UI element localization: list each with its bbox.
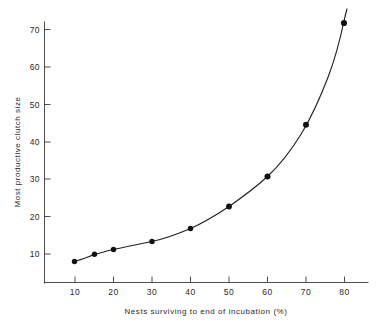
data-point (303, 122, 309, 128)
data-point (72, 259, 77, 264)
y-tick-label-50: 50 (30, 100, 40, 110)
x-tick-label-80: 80 (339, 287, 349, 297)
y-axis-tick-labels: 70 60 50 40 30 20 10 (30, 25, 40, 260)
data-point (188, 226, 193, 231)
chart-figure: 70 60 50 40 30 20 10 10 20 30 40 50 60 (0, 0, 381, 327)
y-tick-label-10: 10 (30, 249, 40, 259)
y-tick-label-70: 70 (30, 25, 40, 35)
x-axis-ticks (75, 277, 345, 283)
x-tick-label-70: 70 (301, 287, 311, 297)
y-axis-title: Most productive clutch size (13, 97, 22, 208)
data-point (265, 174, 271, 180)
data-point (149, 239, 154, 244)
y-tick-label-30: 30 (30, 174, 40, 184)
data-curve (75, 9, 348, 262)
data-points (72, 20, 347, 264)
x-tick-label-50: 50 (224, 287, 234, 297)
chart-plot-area: 70 60 50 40 30 20 10 10 20 30 40 50 60 (0, 0, 381, 327)
data-point (341, 20, 347, 26)
data-point (226, 204, 232, 210)
y-tick-label-20: 20 (30, 212, 40, 222)
x-tick-label-40: 40 (185, 287, 195, 297)
x-tick-label-30: 30 (147, 287, 157, 297)
x-axis-tick-labels: 10 20 30 40 50 60 70 80 (70, 287, 350, 297)
y-tick-label-60: 60 (30, 62, 40, 72)
x-tick-label-60: 60 (262, 287, 272, 297)
x-tick-label-10: 10 (70, 287, 80, 297)
data-point (111, 247, 116, 252)
y-tick-label-40: 40 (30, 137, 40, 147)
x-axis-title: Nests surviving to end of incubation (%) (125, 307, 288, 316)
y-axis-ticks (45, 30, 51, 255)
x-tick-label-20: 20 (108, 287, 118, 297)
data-point (92, 252, 97, 257)
